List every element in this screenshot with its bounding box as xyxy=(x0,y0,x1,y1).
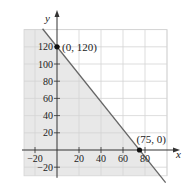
x-tick-label: 60 xyxy=(118,153,128,164)
x-tick-label: 20 xyxy=(74,153,84,164)
x-tick-label: 40 xyxy=(96,153,106,164)
linear-inequality-graph: −2020406080−2020406080100120 (0, 120)(75… xyxy=(0,0,186,196)
x-tick-label: 80 xyxy=(140,153,150,164)
y-tick-label: 40 xyxy=(43,110,53,121)
y-tick-label: −20 xyxy=(37,162,53,173)
intercept-point xyxy=(137,147,142,152)
y-tick-label: 120 xyxy=(38,41,53,52)
y-tick-label: 100 xyxy=(38,59,53,70)
y-tick-label: 80 xyxy=(43,76,53,87)
intercept-point xyxy=(54,44,59,49)
y-axis-label: y xyxy=(44,12,50,24)
y-tick-label: 20 xyxy=(43,127,53,138)
y-tick-label: 60 xyxy=(43,93,53,104)
point-label: (0, 120) xyxy=(62,41,97,54)
point-label: (75, 0) xyxy=(137,133,167,146)
y-axis-arrow-icon xyxy=(55,10,60,17)
x-axis-label: x xyxy=(175,148,181,160)
